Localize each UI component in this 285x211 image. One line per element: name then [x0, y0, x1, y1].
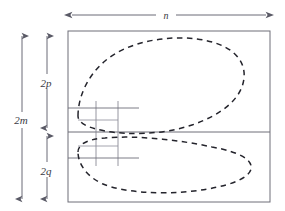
figure-canvas: n 2m 2p 2q	[0, 0, 285, 211]
width-label: n	[164, 10, 169, 21]
outer-rectangle	[68, 31, 270, 202]
lower-dashed-contour	[78, 137, 251, 193]
lower-band-label: 2q	[41, 165, 53, 177]
total-height-label: 2m	[14, 114, 28, 126]
upper-band-arrow: 2p	[41, 36, 53, 128]
diagram-svg: n 2m 2p 2q	[0, 0, 285, 211]
lower-band-arrow: 2q	[41, 136, 53, 199]
width-dimension-arrow: n	[72, 10, 266, 21]
height-dimension-arrow: 2m	[14, 36, 28, 199]
upper-dashed-contour	[78, 38, 244, 134]
upper-band-label: 2p	[41, 77, 53, 89]
